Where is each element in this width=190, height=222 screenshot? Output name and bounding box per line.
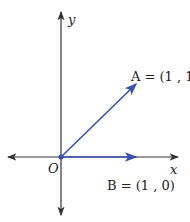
vector-a (61, 84, 136, 157)
vector-b-label: B = (1 , 0) (107, 178, 175, 193)
y-axis-label: y (67, 12, 76, 27)
origin-label: O (48, 161, 59, 176)
origin-point (59, 155, 64, 160)
vector-diagram: y x O A = (1 , 1) B = (1 , 0) (0, 0, 190, 222)
x-axis-label: x (170, 162, 178, 177)
vector-a-label: A = (1 , 1) (130, 69, 190, 84)
